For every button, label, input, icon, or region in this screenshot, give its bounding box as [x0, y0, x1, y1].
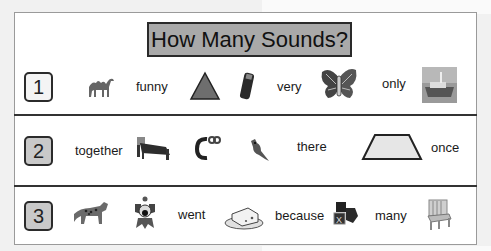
row-number-badge: 3	[24, 201, 53, 231]
cheese-icon	[224, 204, 264, 230]
sight-word: once	[431, 140, 459, 156]
leopard-icon	[72, 200, 110, 226]
clown-icon	[132, 196, 158, 230]
sight-word: together	[75, 143, 123, 159]
row-divider	[14, 185, 477, 187]
trapezoid-icon	[361, 133, 423, 161]
butterfly-icon	[320, 66, 358, 102]
sight-word: went	[178, 207, 205, 223]
worksheet-title: How Many Sounds?	[147, 22, 352, 57]
battery-icon	[238, 70, 256, 102]
camel-icon	[86, 75, 116, 99]
sight-word: only	[382, 76, 406, 92]
background-panel	[262, 246, 491, 251]
sight-word: because	[275, 208, 324, 224]
chair-icon	[425, 199, 453, 231]
cardinal-bird-icon	[247, 137, 275, 165]
triangle-icon	[189, 71, 221, 101]
blocks-icon: X	[333, 200, 359, 226]
letter-c-icon	[193, 134, 221, 162]
sight-word: many	[375, 208, 407, 224]
bed-icon	[136, 135, 172, 161]
sight-word: funny	[136, 79, 168, 95]
row-divider	[14, 114, 477, 116]
row-number-badge: 1	[24, 72, 53, 102]
svg-text:X: X	[336, 215, 342, 225]
boat-icon	[422, 67, 457, 103]
sight-word: there	[297, 139, 327, 155]
row-number-badge: 2	[24, 136, 53, 166]
sight-word: very	[277, 79, 302, 95]
